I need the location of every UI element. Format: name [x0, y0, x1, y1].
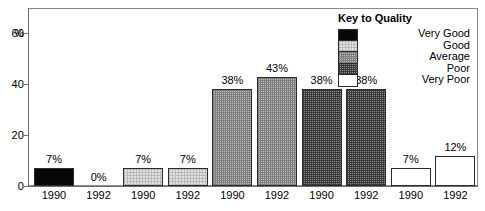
bar-group: 0% — [77, 8, 121, 186]
bar[interactable] — [168, 168, 208, 186]
legend-item-label: Very Good — [362, 28, 472, 40]
legend-swatch — [339, 75, 357, 86]
bar[interactable] — [212, 89, 252, 186]
x-axis-label: 1990 — [32, 189, 76, 201]
y-axis-tick-40: 40 — [2, 79, 24, 90]
bar-group: 43% — [255, 8, 299, 186]
x-axis-line — [28, 186, 478, 187]
x-axis-label: 1992 — [255, 189, 299, 201]
bar[interactable] — [346, 89, 386, 186]
bar[interactable] — [435, 156, 475, 187]
x-axis-label: 1990 — [121, 189, 165, 201]
bar-value-label: 7% — [389, 154, 433, 165]
legend-swatch — [339, 52, 357, 63]
bar[interactable] — [34, 168, 74, 186]
bar[interactable] — [123, 168, 163, 186]
x-axis-label: 1990 — [389, 189, 433, 201]
bar-value-label: 7% — [166, 154, 210, 165]
x-axis-label: 1992 — [77, 189, 121, 201]
bar-value-label: 38% — [210, 75, 254, 86]
bar-value-label: 7% — [121, 154, 165, 165]
x-axis-label: 1992 — [344, 189, 388, 201]
y-axis-tick-0: 0 — [2, 181, 24, 192]
x-axis-label: 1990 — [300, 189, 344, 201]
legend-swatch — [339, 64, 357, 75]
legend-swatch-column — [338, 29, 358, 87]
y-axis-tick-20: 20 — [2, 130, 24, 141]
bar-value-label: 43% — [255, 63, 299, 74]
bar-group: 7% — [32, 8, 76, 186]
bar-value-label: 0% — [77, 172, 121, 183]
bar-group: 38% — [210, 8, 254, 186]
x-axis-label: 1992 — [166, 189, 210, 201]
legend-title: Key to Quality — [338, 12, 412, 24]
x-axis-label: 1990 — [210, 189, 254, 201]
x-axis-labels: 1990199219901992199019921990199219901992 — [28, 189, 478, 205]
bar-chart: % 6040200 7%0%7%7%38%43%38%38%7%12% 1990… — [0, 0, 485, 211]
legend-swatch — [339, 30, 357, 41]
x-axis-label: 1992 — [433, 189, 477, 201]
bar[interactable] — [302, 89, 342, 186]
legend: Key to Quality Very GoodGoodAveragePoorV… — [332, 8, 478, 92]
bar-value-label: 12% — [433, 142, 477, 153]
bar-group: 7% — [166, 8, 210, 186]
bar[interactable] — [391, 168, 431, 186]
legend-item-label: Very Poor — [362, 74, 472, 86]
bar-value-label: 7% — [32, 154, 76, 165]
y-axis-tick-60: 60 — [2, 28, 24, 39]
legend-label-column: Very GoodGoodAveragePoorVery Poor — [362, 28, 472, 86]
bar[interactable] — [257, 77, 297, 186]
bar-group: 7% — [121, 8, 165, 186]
legend-swatch — [339, 41, 357, 52]
